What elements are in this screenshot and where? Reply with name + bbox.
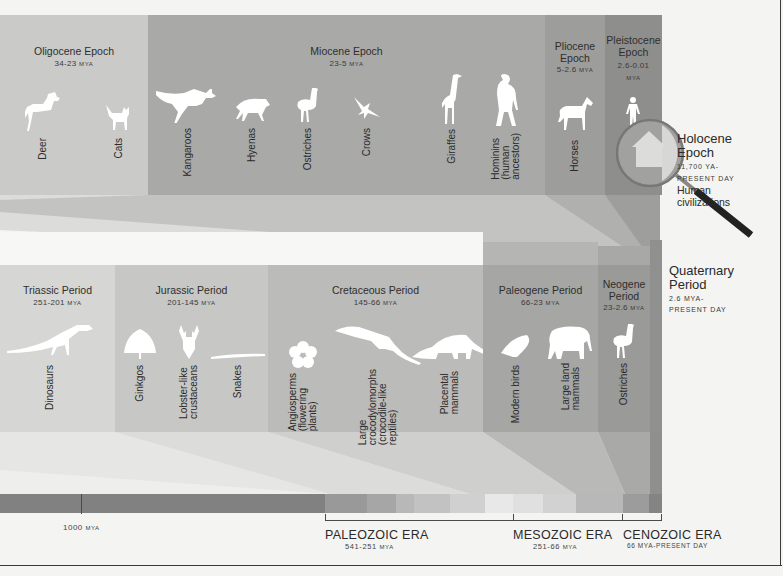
era-title-paleozoic: PALEOZOIC ERA [325, 528, 429, 542]
ostrich-icon [296, 87, 320, 123]
period-title: Paleogene Period [483, 284, 598, 296]
period-title: Jurassic Period [115, 284, 268, 296]
epoch-panel-miocene: Miocene Epoch 23-5 MYA Kangaroos Hyenas … [148, 15, 545, 195]
period-panel-jurassic: Jurassic Period 201-145 MYA Ginkgos Lobs… [115, 265, 268, 432]
flower-icon [289, 341, 317, 369]
holocene-label: Holocene Epoch 11,700 YA- PRESENT DAY Hu… [677, 132, 735, 208]
anteater-icon [412, 333, 488, 361]
holocene-title-line2: Epoch [677, 146, 735, 160]
period-title: NeogenePeriod [598, 278, 650, 302]
organism-label: Crows [362, 128, 372, 156]
period-panel-triassic: Triassic Period 251-201 MYA Dinosaurs [0, 265, 115, 432]
period-title: Cretaceous Period [268, 284, 483, 296]
organism-label: Snakes [233, 365, 243, 398]
ostrich-icon [612, 323, 636, 359]
holocene-description: Human [677, 184, 735, 196]
holocene-range: 11,700 YA- [677, 160, 735, 174]
holocene-range-line2: PRESENT DAY [677, 174, 735, 184]
organism-label: Giraffes [447, 129, 457, 164]
organism-label: Ostriches [619, 363, 629, 405]
era-range-cenozoic: 66 MYA-PRESENT DAY [627, 542, 708, 549]
tick-label: 1000 MYA [63, 523, 100, 532]
dinosaur-icon [7, 323, 93, 359]
tick-1000-mya [81, 494, 82, 514]
crocodile-icon [335, 325, 421, 365]
organism-label: Lobster-like crustaceans [179, 365, 199, 419]
organism-label: Kangaroos [183, 128, 193, 176]
period-panel-neogene: NeogenePeriod 23-2.6 MYA Ostriches [598, 265, 650, 432]
period-panel-cretaceous: Cretaceous Period 145-66 MYA Angiosperms… [268, 265, 483, 432]
era-range-mesozoic: 251-66 MYA [533, 542, 577, 551]
period-range: 23-2.6 MYA [598, 303, 650, 312]
lobster-icon [178, 325, 200, 359]
organism-label: Dinosaurs [45, 365, 55, 410]
quaternary-title: Quaternary [669, 264, 734, 278]
organism-label: Cats [114, 138, 124, 159]
organism-label: Large land mammals [561, 363, 581, 410]
epoch-title: Oligocene Epoch [0, 45, 148, 57]
bird-icon [501, 335, 531, 359]
holocene-title: Holocene [677, 132, 735, 146]
organism-label: Angiosperms (flowering plants) [288, 373, 318, 431]
organism-label: Hyenas [247, 128, 257, 162]
hominin-icon [490, 73, 522, 129]
organism-label: Hominins (human ancestors) [491, 133, 521, 180]
epoch-panel-oligocene: Oligocene Epoch 34-23 MYA Deer Cats [0, 15, 148, 195]
epoch-range: 5-2.6 MYA [545, 65, 605, 74]
organism-label: Ginkgos [135, 365, 145, 402]
crow-icon [352, 95, 382, 121]
kangaroo-icon [156, 83, 220, 123]
period-panel-paleogene: Paleogene Period 66-23 MYA Modern birds … [483, 265, 598, 432]
giraffe-icon [439, 73, 465, 125]
horse-icon [555, 95, 595, 131]
epoch-panel-pliocene: PlioceneEpoch 5-2.6 MYA Horses [545, 15, 605, 195]
epoch-range: 23-5 MYA [148, 59, 545, 68]
hyena-icon [232, 95, 272, 123]
epoch-title: Miocene Epoch [148, 45, 545, 57]
organism-label: Placental mammals [440, 371, 460, 414]
period-range: 251-201 MYA [0, 298, 115, 307]
quaternary-label: Quaternary Period 2.6 MYA- PRESENT DAY [669, 264, 734, 316]
period-title: Triassic Period [0, 284, 115, 296]
period-range: 145-66 MYA [268, 298, 483, 307]
ginkgo-icon [123, 327, 157, 359]
deer-icon [25, 90, 61, 134]
era-title-mesozoic: MESOZOIC ERA [513, 528, 612, 542]
cat-icon [104, 103, 134, 131]
period-range: 201-145 MYA [115, 298, 268, 307]
organism-label: Modern birds [511, 365, 521, 423]
era-title-cenozoic: CENOZOIC ERA [623, 528, 722, 542]
organism-label: Horses [570, 140, 580, 172]
quaternary-range: 2.6 MYA- [669, 294, 734, 304]
era-range-paleozoic: 541-251 MYA [345, 542, 394, 551]
holocene-description-line2: civilizations [677, 196, 735, 208]
quaternary-strip [650, 242, 662, 432]
organism-label: Ostriches [303, 128, 313, 170]
period-range: 66-23 MYA [483, 298, 598, 307]
organism-label: Large crocodylomorphs (crocodile-like re… [358, 369, 398, 445]
epoch-range: 34-23 MYA [0, 59, 148, 68]
epoch-title: PlioceneEpoch [545, 40, 605, 64]
epoch-title: PleistoceneEpoch [605, 34, 662, 58]
organism-label: Deer [38, 138, 48, 160]
elephant-icon [548, 325, 594, 359]
quaternary-title-line2: Period [669, 278, 734, 292]
quaternary-range-line2: PRESENT DAY [669, 304, 734, 316]
epoch-range: 2.6-0.01MYA [605, 60, 662, 84]
snake-icon [211, 353, 265, 359]
